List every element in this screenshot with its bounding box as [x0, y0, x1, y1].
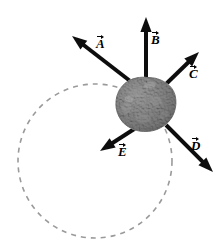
- vector-label-A-glyph: A: [96, 37, 105, 50]
- vector-label-D-glyph: D: [191, 139, 200, 152]
- vector-label-C-glyph: C: [189, 67, 198, 80]
- vector-label-B-glyph: B: [151, 33, 160, 46]
- vector-arrow-bar-icon: [118, 142, 127, 146]
- vector-arrow-bar-icon: [96, 34, 105, 38]
- vector-D-arrow: [166, 125, 213, 172]
- vector-label-E: E: [118, 142, 127, 158]
- vector-label-E-glyph: E: [118, 145, 127, 158]
- vector-label-B: B: [151, 30, 160, 46]
- vector-arrow-bar-icon: [189, 64, 198, 68]
- vector-label-A: A: [96, 34, 105, 50]
- asteroid-body: [116, 77, 176, 131]
- vector-B-arrow: [140, 17, 151, 82]
- vector-label-C: C: [189, 64, 198, 80]
- vector-arrow-bar-icon: [191, 136, 200, 140]
- figure-canvas: [0, 0, 219, 249]
- vector-label-D: D: [191, 136, 200, 152]
- vector-arrow-bar-icon: [151, 30, 160, 34]
- physics-figure: A B C D E: [0, 0, 219, 249]
